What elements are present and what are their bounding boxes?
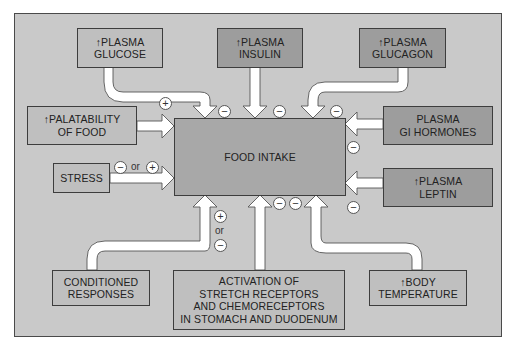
box-plasma-insulin: ↑PLASMA INSULIN [217, 28, 303, 68]
sign-glucagon-minus: − [330, 105, 343, 118]
box-plasma-leptin: ↑PLASMA LEPTIN [383, 168, 493, 207]
sign-stress-plus: + [146, 161, 159, 174]
arrow-palatability [137, 114, 174, 138]
sign-palatability-plus: + [159, 97, 172, 110]
sign-stretch-minus: − [273, 197, 286, 210]
sign-insulin-minus: − [273, 105, 286, 118]
box-plasma-glucose: ↑PLASMA GLUCOSE [77, 28, 163, 68]
label-plasma-glucose: ↑PLASMA GLUCOSE [94, 36, 146, 61]
sign-conditioned-plus: + [214, 210, 227, 223]
diagram-stage: ↑PLASMA GLUCOSE ↑PLASMA INSULIN ↑PLASMA … [0, 0, 518, 350]
label-plasma-leptin: ↑PLASMA LEPTIN [414, 175, 463, 200]
arrow-gi-hormones [345, 112, 383, 136]
label-plasma-insulin: ↑PLASMA INSULIN [236, 36, 285, 61]
sign-stress-minus: − [114, 161, 127, 174]
label-stretch-receptors: ACTIVATION OF STRETCH RECEPTORS AND CHEM… [180, 275, 337, 325]
label-plasma-gi-hormones: PLASMA GI HORMONES [400, 113, 477, 138]
stress-or-text: or [131, 161, 140, 172]
sign-leptin-minus: − [347, 201, 360, 214]
label-body-temperature: ↑BODY TEMPERATURE [378, 276, 458, 301]
label-stress: STRESS [60, 172, 103, 185]
sign-body-temp-minus: − [289, 197, 302, 210]
box-plasma-gi-hormones: PLASMA GI HORMONES [383, 106, 493, 145]
arrow-conditioned [87, 195, 217, 270]
box-stretch-receptors: ACTIVATION OF STRETCH RECEPTORS AND CHEM… [173, 270, 345, 330]
arrow-stretch [248, 195, 272, 270]
box-body-temperature: ↑BODY TEMPERATURE [369, 270, 467, 306]
box-conditioned-responses: CONDITIONED RESPONSES [52, 270, 150, 306]
label-plasma-glucagon: ↑PLASMA GLUCAGON [372, 36, 433, 61]
label-palatability: ↑PALATABILITY OF FOOD [44, 113, 121, 138]
sign-glucose-minus: − [218, 105, 231, 118]
box-plasma-glucagon: ↑PLASMA GLUCAGON [359, 28, 446, 68]
box-food-intake: FOOD INTAKE [174, 118, 346, 196]
conditioned-or-text: or [215, 225, 224, 236]
sign-conditioned-minus: − [214, 239, 227, 252]
label-food-intake: FOOD INTAKE [224, 151, 296, 164]
sign-gi-hormones-minus: − [347, 141, 360, 154]
arrow-insulin [243, 67, 267, 118]
box-palatability: ↑PALATABILITY OF FOOD [27, 106, 137, 145]
arrow-leptin [345, 171, 383, 195]
label-conditioned-responses: CONDITIONED RESPONSES [64, 276, 139, 301]
box-stress: STRESS [53, 163, 110, 193]
